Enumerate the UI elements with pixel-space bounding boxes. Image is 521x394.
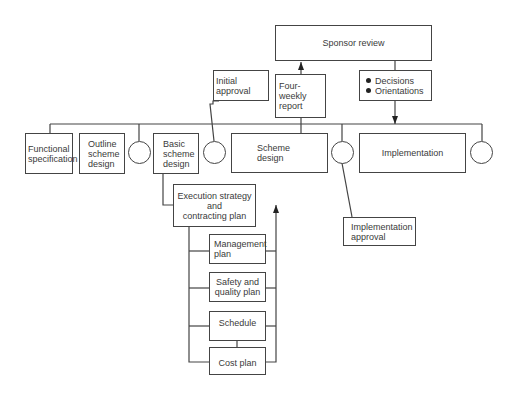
execution-strategy-box: Execution strategy and contracting plan xyxy=(173,184,256,227)
decisions-box: Decisions Orientations xyxy=(359,70,432,101)
bullet-icon xyxy=(366,78,371,83)
decisions-item: Decisions xyxy=(366,76,414,86)
phase-scheme-design: Scheme design xyxy=(231,133,328,173)
cost-plan-box: Cost plan xyxy=(209,347,266,375)
phase-basic-scheme-design: Basic scheme design xyxy=(153,133,199,174)
bullet-icon xyxy=(366,88,371,93)
implementation-approval-box: Implementation approval xyxy=(343,217,416,246)
milestone-circle-end xyxy=(470,141,493,164)
four-weekly-report-box: Four-weekly report xyxy=(275,74,326,118)
phase-implementation: Implementation xyxy=(359,133,466,173)
schedule-box: Schedule xyxy=(209,311,266,341)
initial-approval-label: Initial approval xyxy=(216,76,268,96)
phase-outline-scheme-design: Outline scheme design xyxy=(79,133,125,174)
milestone-circle-1 xyxy=(128,141,151,164)
sponsor-review-box: Sponsor review xyxy=(275,25,432,61)
safety-quality-plan-box: Safety and quality plan xyxy=(209,272,266,302)
initial-approval-box: Initial approval xyxy=(213,70,269,101)
phase-functional-specification: Functional specification xyxy=(25,133,73,174)
milestone-circle-initial-approval xyxy=(203,141,226,164)
sponsor-review-label: Sponsor review xyxy=(322,38,384,48)
four-weekly-report-label: Four-weekly report xyxy=(279,81,325,111)
milestone-circle-implementation-approval xyxy=(331,141,354,164)
orientations-item: Orientations xyxy=(366,86,424,96)
management-plan-box: Management plan xyxy=(209,234,266,264)
